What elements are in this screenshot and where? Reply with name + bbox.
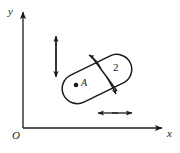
point-a-marker xyxy=(74,83,79,88)
loop-outline-path xyxy=(57,49,137,108)
closed-loop-boundary xyxy=(57,49,137,108)
origin-label: O xyxy=(12,130,20,141)
point-a-label: A xyxy=(81,78,87,88)
region-2-label: 2 xyxy=(113,62,119,73)
y-axis-label: y xyxy=(8,6,13,17)
diagram-canvas xyxy=(0,0,180,153)
physics-diagram-figure: y x O A 2 xyxy=(0,0,180,153)
x-axis-label: x xyxy=(167,128,172,139)
divider-arrow-lower-right xyxy=(107,77,116,94)
